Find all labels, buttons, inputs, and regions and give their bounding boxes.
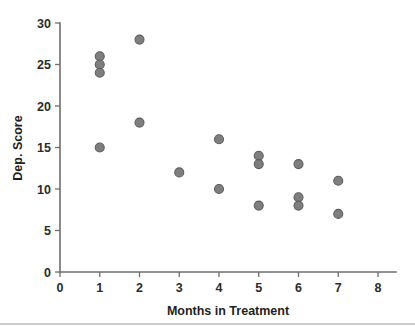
x-tick-label: 5 bbox=[255, 281, 262, 295]
data-point bbox=[215, 135, 224, 144]
scatter-chart-figure: 051015202530 012345678 Months in Treatme… bbox=[0, 0, 415, 327]
data-point bbox=[334, 209, 343, 218]
x-tick-label: 0 bbox=[57, 281, 64, 295]
data-point-group bbox=[95, 35, 343, 218]
chart-canvas: 051015202530 012345678 Months in Treatme… bbox=[0, 0, 415, 327]
y-tick-label: 30 bbox=[37, 17, 51, 31]
x-axis-title: Months in Treatment bbox=[167, 304, 290, 318]
x-tick-label: 3 bbox=[176, 281, 183, 295]
y-tick-label: 0 bbox=[44, 266, 51, 280]
x-tick-label: 4 bbox=[216, 281, 223, 295]
data-point bbox=[254, 160, 263, 169]
x-tick-label: 2 bbox=[136, 281, 143, 295]
y-tick-label: 10 bbox=[37, 183, 51, 197]
y-tick-label: 25 bbox=[37, 58, 51, 72]
data-point bbox=[95, 143, 104, 152]
x-tick-label: 8 bbox=[375, 281, 382, 295]
data-point bbox=[135, 118, 144, 127]
data-point bbox=[175, 168, 184, 177]
data-point bbox=[95, 52, 104, 61]
y-tick-label: 20 bbox=[37, 100, 51, 114]
data-point bbox=[254, 201, 263, 210]
data-point bbox=[334, 176, 343, 185]
data-point bbox=[95, 68, 104, 77]
data-point bbox=[294, 193, 303, 202]
data-point bbox=[294, 160, 303, 169]
y-tick-label: 5 bbox=[44, 224, 51, 238]
data-point bbox=[215, 185, 224, 194]
y-tick-group: 051015202530 bbox=[37, 17, 60, 280]
x-tick-label: 6 bbox=[295, 281, 302, 295]
y-axis-title: Dep. Score bbox=[11, 115, 25, 180]
data-point bbox=[294, 201, 303, 210]
y-tick-label: 15 bbox=[37, 141, 51, 155]
x-tick-label: 7 bbox=[335, 281, 342, 295]
data-point bbox=[254, 151, 263, 160]
x-tick-group: 012345678 bbox=[57, 272, 382, 295]
x-tick-label: 1 bbox=[96, 281, 103, 295]
data-point bbox=[135, 35, 144, 44]
data-point bbox=[95, 60, 104, 69]
